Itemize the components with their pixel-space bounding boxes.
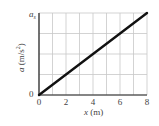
x-tick-labels: 02468 [37, 97, 150, 107]
x-tick-label: 2 [64, 97, 69, 107]
x-tick-label: 0 [37, 97, 42, 107]
y-tick-zero: 0 [29, 89, 34, 99]
x-tick-label: 6 [118, 97, 123, 107]
y-tick-top: as [29, 9, 37, 20]
y-tick-top-subscript: s [34, 14, 37, 20]
x-axis-label: x (m) [83, 107, 103, 117]
x-tick-label: 8 [145, 97, 150, 107]
acceleration-vs-position-chart: 02468 0 as x (m) a (m/s2) [0, 0, 159, 126]
x-tick-label: 4 [91, 97, 96, 107]
y-axis-label: a (m/s2) [15, 43, 26, 72]
